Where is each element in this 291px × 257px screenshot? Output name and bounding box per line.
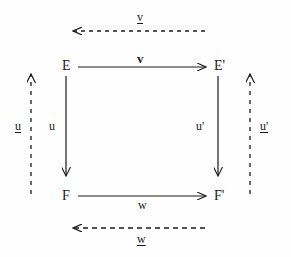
- dashed-arrow-top-label: v: [137, 11, 143, 23]
- node-label-F-prime: F': [214, 189, 224, 203]
- diagram-canvas: E E' F F' v u u' w v u u' w: [0, 0, 291, 257]
- dashed-arrow-right-label: u': [260, 120, 268, 132]
- solid-arrow-bottom-label: w: [138, 199, 147, 211]
- node-label-F: F: [62, 189, 70, 203]
- diagram-svg: [0, 0, 291, 257]
- dashed-arrow-left-label: u: [15, 120, 21, 132]
- solid-arrow-right-label: u': [196, 120, 204, 132]
- solid-arrow-left-label: u: [49, 120, 55, 132]
- dashed-arrow-bottom-label: w: [137, 233, 146, 245]
- node-label-E-prime: E': [214, 59, 225, 73]
- solid-arrow-top-label: v: [137, 52, 144, 65]
- node-label-E: E: [62, 59, 71, 73]
